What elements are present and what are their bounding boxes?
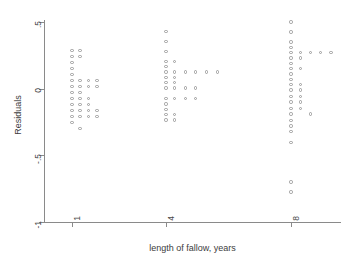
data-point xyxy=(164,40,167,43)
data-point xyxy=(78,115,81,118)
data-point xyxy=(87,115,90,118)
data-point xyxy=(289,130,292,133)
data-point xyxy=(173,76,176,79)
data-point xyxy=(78,109,81,112)
data-point xyxy=(289,180,292,183)
data-point xyxy=(95,109,98,112)
data-point xyxy=(70,103,73,106)
data-point xyxy=(299,95,302,98)
data-point xyxy=(70,55,73,58)
data-point xyxy=(289,78,292,81)
data-point xyxy=(289,67,292,70)
data-point xyxy=(299,67,302,70)
data-point xyxy=(78,85,81,88)
data-point xyxy=(87,109,90,112)
data-point xyxy=(164,76,167,79)
data-point xyxy=(173,113,176,116)
data-point xyxy=(164,118,167,121)
data-point xyxy=(309,112,312,115)
data-point xyxy=(289,112,292,115)
data-point xyxy=(289,95,292,98)
data-point xyxy=(164,81,167,84)
data-point xyxy=(289,83,292,86)
data-point xyxy=(70,121,73,124)
data-point xyxy=(184,70,187,73)
data-point xyxy=(329,51,332,54)
data-point xyxy=(70,115,73,118)
data-point xyxy=(289,100,292,103)
data-point xyxy=(289,124,292,127)
data-point xyxy=(299,83,302,86)
data-point xyxy=(70,67,73,70)
data-point xyxy=(78,97,81,100)
data-point xyxy=(184,86,187,89)
data-point xyxy=(173,86,176,89)
data-point xyxy=(289,190,292,193)
data-point xyxy=(164,113,167,116)
data-point xyxy=(289,51,292,54)
scatter-plot-figure: .50-.5-1 148 Residuals length of fallow,… xyxy=(0,0,351,266)
data-point xyxy=(87,79,90,82)
data-point xyxy=(309,51,312,54)
data-point xyxy=(95,85,98,88)
data-point xyxy=(289,141,292,144)
data-point xyxy=(87,103,90,106)
data-point xyxy=(289,107,292,110)
data-point xyxy=(78,79,81,82)
data-point xyxy=(70,61,73,64)
data-point xyxy=(289,72,292,75)
data-point xyxy=(194,97,197,100)
data-point xyxy=(289,88,292,91)
data-point xyxy=(299,56,302,59)
data-point xyxy=(164,97,167,100)
data-point xyxy=(173,70,176,73)
data-point xyxy=(289,56,292,59)
data-point xyxy=(78,91,81,94)
data-point xyxy=(299,51,302,54)
data-point xyxy=(289,46,292,49)
data-point xyxy=(70,49,73,52)
data-point xyxy=(299,100,302,103)
data-point xyxy=(194,86,197,89)
data-point xyxy=(194,70,197,73)
data-point xyxy=(70,91,73,94)
data-point xyxy=(87,97,90,100)
data-point xyxy=(70,79,73,82)
data-point xyxy=(78,103,81,106)
data-point xyxy=(289,20,292,23)
data-point xyxy=(78,127,81,130)
data-point xyxy=(70,85,73,88)
plot-data-area xyxy=(0,0,351,266)
data-point xyxy=(164,86,167,89)
data-point xyxy=(289,40,292,43)
data-point xyxy=(164,60,167,63)
data-point xyxy=(289,30,292,33)
data-point xyxy=(70,97,73,100)
data-point xyxy=(289,62,292,65)
data-point xyxy=(205,70,208,73)
data-point xyxy=(164,108,167,111)
data-point xyxy=(70,73,73,76)
data-point xyxy=(173,118,176,121)
data-point xyxy=(289,119,292,122)
data-point xyxy=(173,97,176,100)
data-point xyxy=(164,50,167,53)
data-point xyxy=(164,65,167,68)
data-point xyxy=(78,55,81,58)
data-point xyxy=(87,85,90,88)
data-point xyxy=(164,102,167,105)
data-point xyxy=(173,60,176,63)
data-point xyxy=(299,107,302,110)
data-point xyxy=(70,109,73,112)
data-point xyxy=(173,81,176,84)
data-point xyxy=(164,70,167,73)
data-point xyxy=(319,51,322,54)
data-point xyxy=(95,79,98,82)
data-point xyxy=(299,88,302,91)
data-point xyxy=(78,49,81,52)
data-point xyxy=(164,30,167,33)
data-point xyxy=(216,70,219,73)
data-point xyxy=(184,97,187,100)
data-point xyxy=(95,115,98,118)
